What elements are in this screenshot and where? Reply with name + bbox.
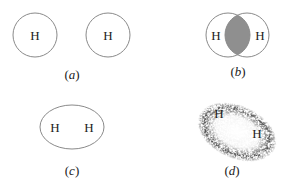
atom-label: H: [252, 126, 261, 141]
atom-label: H: [103, 28, 112, 43]
panel-caption: (d): [224, 163, 239, 178]
panel-caption: (b): [230, 64, 245, 79]
atom-label: H: [50, 120, 59, 135]
panel-caption: (c): [65, 163, 79, 178]
panel-d: H H (d): [189, 92, 285, 178]
atom-label: H: [30, 28, 39, 43]
panel-caption: (a): [64, 67, 79, 82]
electron-cloud: [189, 92, 285, 173]
panel-a: H H (a): [13, 13, 130, 82]
atom-label: H: [214, 106, 223, 121]
atom-label: H: [255, 28, 264, 43]
panel-c: H H (c): [40, 105, 104, 178]
atom-label: H: [84, 120, 93, 135]
panel-b: H H (b): [206, 13, 269, 79]
hydrogen-bonding-diagram: H H (a) H H (b) H H (c) H H (d): [0, 0, 287, 187]
atom-label: H: [211, 28, 220, 43]
